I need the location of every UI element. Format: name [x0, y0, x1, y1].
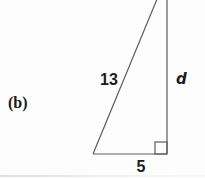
base-label: 5 — [137, 158, 146, 175]
part-label: (b) — [8, 94, 28, 112]
geometry-figure: (b) 13 d 5 — [0, 0, 205, 179]
vertical-leg-label: d — [176, 70, 187, 88]
right-triangle-diagram: (b) 13 d 5 — [0, 0, 205, 179]
right-angle-marker — [155, 142, 167, 154]
hypotenuse-label: 13 — [100, 71, 118, 88]
